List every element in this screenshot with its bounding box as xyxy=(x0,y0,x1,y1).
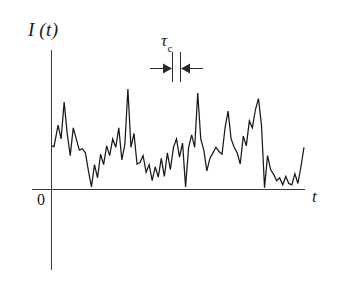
tau-right-arrow-head-icon xyxy=(181,64,190,74)
intensity-signal-trace xyxy=(52,89,304,188)
tau-left-arrow-head-icon xyxy=(163,64,172,74)
y-axis-label: I (t) xyxy=(28,20,59,39)
tau-subscript: c xyxy=(168,42,173,54)
origin-label: 0 xyxy=(37,192,45,208)
tau-c-label: τc xyxy=(161,32,172,52)
intensity-fluctuation-figure: I (t) t 0 τc xyxy=(0,0,340,282)
x-axis-label: t xyxy=(312,188,317,205)
tau-symbol: τ xyxy=(161,31,167,50)
